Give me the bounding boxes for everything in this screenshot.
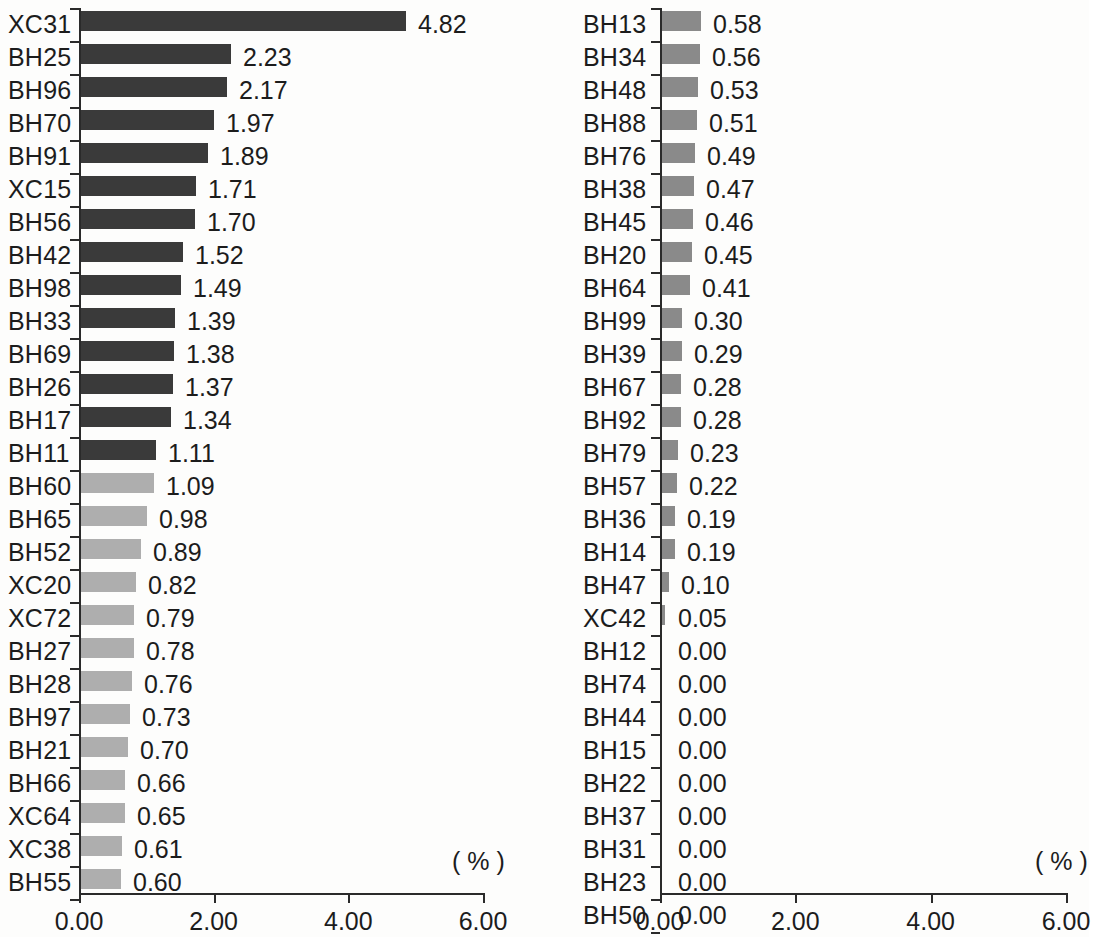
y-axis-tick	[651, 470, 660, 472]
bar-value-label: 0.76	[144, 668, 193, 701]
bar-row: BH340.56	[545, 41, 1089, 74]
y-axis-tick	[651, 635, 660, 637]
bar-row: BH990.30	[545, 305, 1089, 338]
bar-value-label: 1.70	[207, 206, 256, 239]
bar-value-label: 1.39	[187, 305, 236, 338]
bar	[81, 803, 125, 823]
bar-value-label: 1.89	[220, 140, 269, 173]
bar-row: XC720.79	[0, 602, 545, 635]
category-label: BH74	[583, 668, 646, 701]
bar-row: XC420.05	[545, 602, 1089, 635]
category-label: BH28	[8, 668, 71, 701]
category-label: BH67	[583, 371, 646, 404]
y-axis-tick	[651, 41, 660, 43]
bar	[81, 275, 181, 295]
bar-value-label: 0.53	[710, 74, 759, 107]
bar-row: BH111.11	[0, 437, 545, 470]
x-axis-tick-label: 4.00	[886, 907, 976, 936]
bar-value-label: 0.23	[690, 437, 739, 470]
y-axis-tick	[651, 866, 660, 868]
y-axis-tick	[651, 437, 660, 439]
bar	[81, 770, 125, 790]
category-label: BH64	[583, 272, 646, 305]
bar-value-label: 0.00	[678, 668, 727, 701]
bar	[81, 308, 175, 328]
bar-value-label: 0.46	[705, 206, 754, 239]
bar-value-label: 0.10	[681, 569, 730, 602]
y-axis-tick	[70, 470, 79, 472]
bar-row: XC314.82	[0, 8, 545, 41]
y-axis-tick	[651, 800, 660, 802]
category-label: BH44	[583, 701, 646, 734]
y-axis-tick	[651, 272, 660, 274]
y-axis-tick	[651, 140, 660, 142]
bar-row: BH470.10	[545, 569, 1089, 602]
bar	[81, 440, 156, 460]
category-label: XC31	[8, 8, 71, 41]
x-axis-tick	[79, 893, 81, 903]
bar	[81, 836, 122, 856]
category-label: BH39	[583, 338, 646, 371]
bar	[81, 11, 406, 31]
bar-value-label: 0.78	[146, 635, 195, 668]
category-label: BH23	[583, 866, 646, 899]
bar-row: BH640.41	[545, 272, 1089, 305]
bar-value-label: 0.82	[148, 569, 197, 602]
x-axis-tick	[348, 893, 350, 903]
bar	[662, 539, 675, 559]
bar	[662, 110, 697, 130]
bar-row: BH920.28	[545, 404, 1089, 437]
y-axis-tick	[651, 602, 660, 604]
bar-value-label: 1.97	[226, 107, 275, 140]
bar-row: BH140.19	[545, 536, 1089, 569]
bar-value-label: 0.28	[693, 371, 742, 404]
bar	[81, 110, 214, 130]
bar	[81, 605, 134, 625]
category-label: BH22	[583, 767, 646, 800]
bar-value-label: 2.23	[243, 41, 292, 74]
bar-row: BH380.47	[545, 173, 1089, 206]
bar	[81, 143, 208, 163]
bar-value-label: 0.66	[137, 767, 186, 800]
bar-row: BH450.46	[545, 206, 1089, 239]
bar-row: BH210.70	[0, 734, 545, 767]
y-axis-tick	[70, 767, 79, 769]
bar	[81, 77, 227, 97]
bar	[662, 572, 669, 592]
bar	[662, 44, 700, 64]
category-label: BH76	[583, 140, 646, 173]
bar-value-label: 1.52	[195, 239, 244, 272]
y-axis-tick	[70, 305, 79, 307]
bar-value-label: 0.29	[694, 338, 743, 371]
y-axis-tick	[70, 701, 79, 703]
bar-value-label: 0.19	[687, 503, 736, 536]
x-axis-tick-label: 2.00	[750, 907, 840, 936]
category-label: XC20	[8, 569, 71, 602]
bar-value-label: 1.38	[186, 338, 235, 371]
bar-value-label: 0.56	[712, 41, 761, 74]
bar-value-label: 0.49	[707, 140, 756, 173]
category-label: BH52	[8, 536, 71, 569]
bar-row: BH200.45	[545, 239, 1089, 272]
bar	[81, 671, 132, 691]
y-axis-tick	[651, 305, 660, 307]
category-label: BH70	[8, 107, 71, 140]
y-axis-tick	[651, 767, 660, 769]
bar	[81, 704, 130, 724]
bar-row: BH740.00	[545, 668, 1089, 701]
category-label: BH13	[583, 8, 646, 41]
y-axis-tick	[70, 404, 79, 406]
bar-value-label: 0.73	[142, 701, 191, 734]
category-label: BH38	[583, 173, 646, 206]
bar-value-label: 0.79	[146, 602, 195, 635]
y-axis-tick	[70, 536, 79, 538]
category-label: BH27	[8, 635, 71, 668]
chart-panel-left: XC314.82BH252.23BH962.17BH701.97BH911.89…	[0, 0, 545, 937]
x-axis-tick-label: 2.00	[169, 907, 259, 936]
y-axis-tick	[70, 602, 79, 604]
category-label: BH56	[8, 206, 71, 239]
bar-chart-right: BH130.58BH340.56BH480.53BH880.51BH760.49…	[545, 0, 1089, 937]
y-axis-tick	[70, 635, 79, 637]
bar-row: BH390.29	[545, 338, 1089, 371]
category-label: BH66	[8, 767, 71, 800]
